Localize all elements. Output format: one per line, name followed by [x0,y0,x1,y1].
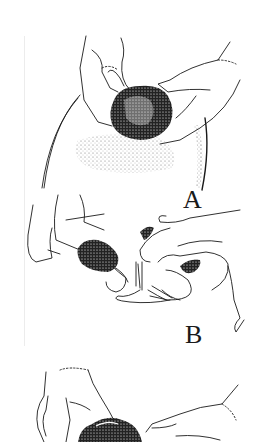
line-drawing [0,0,254,442]
panel-b-drawing [28,195,244,332]
scalp-stipple [76,133,175,173]
panel-label-a: A [183,187,202,213]
hair-tuft-c [78,418,142,442]
panel-label-b: B [185,322,202,348]
hair-tuft-b-left [78,240,119,272]
illustration-figure: A B [0,0,254,442]
hair-tuft-a [110,86,172,140]
hair-tuft-b-right [180,260,200,274]
